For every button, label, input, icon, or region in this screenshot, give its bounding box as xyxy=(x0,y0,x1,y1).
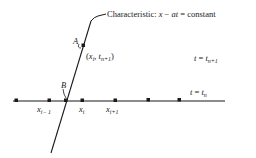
point-a-arrow xyxy=(78,44,81,48)
time-level-label-n-plus-1: t = tn+1 xyxy=(194,53,218,64)
point-a-label: A xyxy=(72,36,79,46)
grid-point-x-i-plus-1 xyxy=(114,99,118,103)
grid-point-x-i xyxy=(81,99,85,103)
point-a-marker xyxy=(82,44,86,48)
grid-point xyxy=(15,99,19,103)
characteristic-leader xyxy=(91,14,106,21)
grid-point-x-i-minus-1 xyxy=(48,99,52,103)
point-coordinate-label: (xi, tn+1) xyxy=(86,51,114,62)
characteristic-label: Characteristic: x − at = constant xyxy=(107,9,216,19)
time-level-label-n: t = tn xyxy=(190,87,207,98)
grid-point xyxy=(147,98,151,102)
point-b-label: B xyxy=(61,80,66,90)
grid-label-x-i-plus-1: xi+1 xyxy=(105,104,119,115)
characteristic-line xyxy=(51,21,91,153)
grid-point xyxy=(178,98,182,102)
grid-label-x-i-minus-1: xi− 1 xyxy=(36,104,51,115)
grid-label-x-i: xi xyxy=(78,104,85,115)
point-b-marker xyxy=(64,99,68,103)
point-b-arrow xyxy=(63,89,66,98)
characteristic-diagram: Characteristic: x − at = constant A B (x… xyxy=(0,0,256,158)
